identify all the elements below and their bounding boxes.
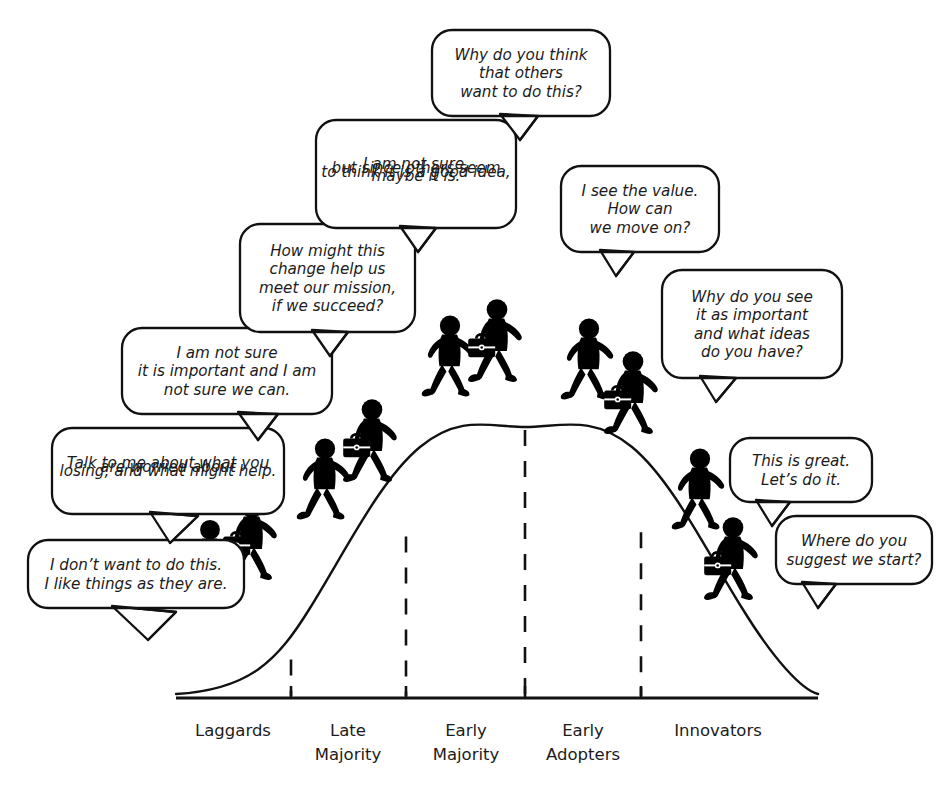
speech-bubble-line: not sure we can. <box>164 381 290 399</box>
axis-label-line2: Adopters <box>546 745 620 764</box>
axis-label-line1: Laggards <box>195 721 271 740</box>
speech-bubble-late-majority-doubt: I am not sureit is important and I amnot… <box>122 328 332 440</box>
speech-bubble-line: Why do you see <box>691 288 813 306</box>
axis-label-line1: Innovators <box>674 721 762 740</box>
speech-bubble-line: we move on? <box>590 219 691 237</box>
speech-bubble-text: Talk to me about what youare worried abo… <box>60 454 277 480</box>
speech-bubble-text: How might thischange help usmeet our mis… <box>259 242 396 316</box>
speech-bubble-line: How might this <box>270 242 385 260</box>
axis-label-early-majority: EarlyMajority <box>433 721 500 764</box>
speech-bubble-innovator-great: This is great.Let’s do it. <box>730 438 872 526</box>
axis-label-line1: Late <box>330 721 366 740</box>
speech-bubble-line: and what ideas <box>694 325 810 343</box>
speech-bubble-line: want to do this? <box>460 83 582 101</box>
axis-label-line2: Majority <box>315 745 382 764</box>
speech-bubble-early-adopter-value: I see the value.How canwe move on? <box>561 166 719 276</box>
walking-figure-early-majority-coach <box>468 299 522 382</box>
walking-figure-early-adopter-coach <box>604 351 658 434</box>
axis-label-line1: Early <box>445 721 487 740</box>
speech-bubble-line: How can <box>607 200 672 218</box>
speech-bubble-line: it is important and I am <box>138 362 317 380</box>
speech-bubble-coach-where-start: Where do yousuggest we start? <box>776 516 932 608</box>
adoption-curve-scene: LaggardsLateMajorityEarlyMajorityEarlyAd… <box>0 0 949 798</box>
speech-bubble-line: I like things as they are. <box>44 575 227 593</box>
speech-bubble-line: I am not sure <box>176 344 277 362</box>
walking-figure-early-adopter-person <box>561 319 614 400</box>
axis-label-line1: Early <box>562 721 604 740</box>
speech-bubble-coach-why-important: Why do you seeit as importantand what id… <box>662 270 842 402</box>
speech-bubble-line: if we succeed? <box>272 297 384 315</box>
axis-tick-marks <box>291 686 641 698</box>
speech-bubble-line: suggest we start? <box>787 551 922 569</box>
speech-bubble-text: Where do yousuggest we start? <box>787 532 922 569</box>
axis-label-line2: Majority <box>433 745 500 764</box>
speech-bubble-line: change help us <box>270 260 386 278</box>
speech-bubble-text: I don’t want to do this.I like things as… <box>44 556 227 593</box>
speech-bubble-text: I am not sure,but since others seemto th… <box>321 155 510 185</box>
speech-bubble-line: that others <box>479 64 563 82</box>
speech-bubble-line: I don’t want to do this. <box>50 556 222 574</box>
axis-label-early-adopters: EarlyAdopters <box>546 721 620 764</box>
axis-label-laggards: Laggards <box>195 721 271 740</box>
speech-bubble-line: I see the value. <box>582 182 699 200</box>
walking-figure-late-majority-coach <box>343 399 397 482</box>
speech-bubble-line: maybe it is. <box>372 167 461 185</box>
speech-bubble-line: meet our mission, <box>259 279 396 297</box>
walking-figure-late-majority-person <box>297 439 350 520</box>
speech-bubble-laggard-resistance: I don’t want to do this.I like things as… <box>28 540 244 640</box>
speech-bubble-line: Let’s do it. <box>761 471 841 489</box>
speech-bubble-line: do you have? <box>701 343 803 361</box>
axis-label-late-majority: LateMajority <box>315 721 382 764</box>
axis-label-innovators: Innovators <box>674 721 762 740</box>
speech-bubble-line: This is great. <box>752 452 850 470</box>
speech-bubble-line: Where do you <box>801 532 907 550</box>
diagram-canvas: LaggardsLateMajorityEarlyMajorityEarlyAd… <box>0 0 949 798</box>
speech-bubble-text: Why do you seeit as importantand what id… <box>691 288 813 362</box>
speech-bubble-text: This is great.Let’s do it. <box>752 452 850 489</box>
walking-figure-innovator-person <box>672 449 725 530</box>
speech-bubble-tail <box>802 582 836 608</box>
speech-bubble-line: Why do you think <box>454 46 588 64</box>
speech-bubble-line: losing, and what might help. <box>60 462 277 480</box>
walking-figure-early-majority-person <box>422 316 475 397</box>
speech-bubble-tail <box>600 250 634 276</box>
speech-bubble-line: it as important <box>696 306 809 324</box>
axis-category-labels: LaggardsLateMajorityEarlyMajorityEarlyAd… <box>195 721 762 764</box>
